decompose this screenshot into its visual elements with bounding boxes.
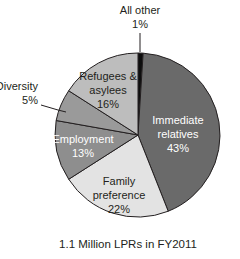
label-all-other-percent: 1%	[132, 18, 148, 30]
label-immediate-relatives-line1: Immediate	[152, 114, 203, 126]
label-immediate-relatives-percent: 43%	[167, 142, 189, 154]
label-employment-percent: 13%	[72, 147, 94, 159]
label-all-other-name: All other	[120, 4, 161, 16]
pie-chart-canvas: All other 1% Diversity 5% Refugees & asy…	[0, 0, 240, 259]
label-all-other: All other 1%	[120, 4, 161, 30]
label-immediate-relatives-line2: relatives	[158, 128, 199, 140]
pie-chart-figure: All other 1% Diversity 5% Refugees & asy…	[0, 0, 240, 259]
label-family-preference-line2: preference	[93, 189, 146, 201]
label-family-preference-percent: 22%	[108, 203, 130, 215]
label-diversity: Diversity 5%	[0, 80, 38, 106]
label-refugees-asylees-line2: asylees	[89, 84, 127, 96]
label-refugees-asylees-percent: 16%	[97, 98, 119, 110]
label-family-preference-line1: Family	[103, 175, 136, 187]
label-employment-line1: Employment	[52, 133, 113, 145]
chart-caption: 1.1 Million LPRs in FY2011	[59, 238, 197, 250]
label-diversity-name: Diversity	[0, 80, 38, 92]
label-diversity-percent: 5%	[22, 94, 38, 106]
label-refugees-asylees-line1: Refugees &	[79, 70, 137, 82]
